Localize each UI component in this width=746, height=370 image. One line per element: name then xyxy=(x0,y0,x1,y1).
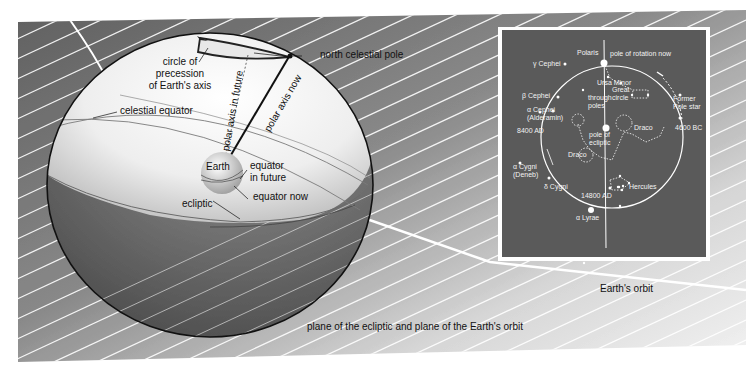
through-poles-label: through poles xyxy=(588,94,612,110)
plane-caption: plane of the ecliptic and plane of the E… xyxy=(307,321,523,332)
equator-now-label: equator now xyxy=(253,191,308,203)
label-line: α Cygni xyxy=(513,163,538,171)
earth-globe xyxy=(201,152,243,194)
pole-of-ecliptic-label: pole of ecliptic xyxy=(589,131,610,147)
gamma-cephei-label: γ Cephei xyxy=(533,60,561,68)
label-line: circle of xyxy=(140,56,220,68)
label-line: precession xyxy=(140,68,220,80)
label-line: (Deneb) xyxy=(513,171,538,179)
year-4600bc-label: 4600 BC xyxy=(675,124,702,132)
polaris-label: Polaris xyxy=(577,49,598,57)
celestial-equator-label: celestial equator xyxy=(120,105,193,117)
circle-of-precession-label: circle of precession of Earth's axis xyxy=(140,56,220,92)
label-line: circle xyxy=(612,94,630,102)
label-line: equator xyxy=(250,160,286,172)
earth-label: Earth xyxy=(206,161,230,173)
former-pole-star-label: Former Pole star xyxy=(673,95,701,111)
label-line: pole of xyxy=(589,131,610,139)
north-celestial-pole-label: north celestial pole xyxy=(320,49,403,61)
equator-in-future-label: equator in future xyxy=(250,160,286,184)
great-circle-label: Great circle xyxy=(612,86,630,102)
beta-cephei-label: β Cephei xyxy=(522,92,550,100)
label-line: ecliptic xyxy=(589,139,610,147)
label-line: α Cephei xyxy=(527,106,563,114)
alpha-cephei-label: α Cephei (Alderamin) xyxy=(527,106,563,122)
label-line: of Earth's axis xyxy=(140,80,220,92)
alpha-lyrae-label: α Lyrae xyxy=(576,214,599,222)
draco-upper-label: Draco xyxy=(634,124,653,132)
alpha-cygni-label: α Cygni (Deneb) xyxy=(513,163,538,179)
delta-cygni-label: δ Cygni xyxy=(544,183,568,191)
label-line: poles xyxy=(588,102,612,110)
label-line: in future xyxy=(250,172,286,184)
pole-of-rotation-now-label: pole of rotation now xyxy=(610,50,671,58)
draco-lower-label: Draco xyxy=(568,151,587,159)
precession-diagram: circle of precession of Earth's axis nor… xyxy=(0,0,746,370)
label-line: through xyxy=(588,94,612,102)
hercules-label: Hercules xyxy=(629,183,657,191)
ecliptic-label: ecliptic xyxy=(182,198,213,210)
year-14800-label: 14800 AD xyxy=(581,192,612,200)
year-8400-label: 8400 AD xyxy=(517,127,544,135)
earths-orbit-label: Earth's orbit xyxy=(600,283,653,294)
label-line: Former xyxy=(673,95,701,103)
label-line: (Alderamin) xyxy=(527,114,563,122)
label-line: Pole star xyxy=(673,103,701,111)
label-line: Great xyxy=(612,86,630,94)
